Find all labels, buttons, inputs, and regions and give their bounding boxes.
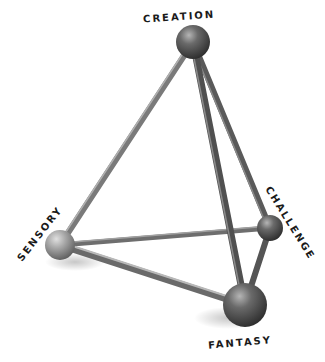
edge-creation-sensory [60,42,193,245]
node-fantasy [223,283,267,327]
node-creation [176,25,210,59]
edge-creation-challenge-highlight [191,43,268,229]
edge-creation-sensory-highlight [58,41,191,244]
tetrahedron-diagram: CREATION SENSORY CHALLENGE FANTASY [0,0,325,362]
edge-sensory-fantasy-highlight [60,242,245,302]
edge-sensory-fantasy [60,245,245,305]
label-creation: CREATION [143,9,216,25]
edge-sensory-challenge [60,228,270,245]
node-sensory [45,230,75,260]
edge-creation-fantasy-highlight [191,43,243,305]
edge-creation-fantasy [193,42,245,305]
node-challenge [257,215,283,241]
label-fantasy: FANTASY [208,334,273,351]
edge-creation-challenge [193,42,270,228]
edge-sensory-challenge-highlight [60,226,270,243]
